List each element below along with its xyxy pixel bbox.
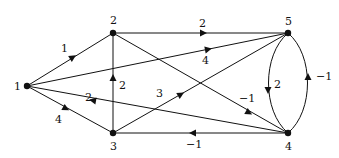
edge-1-5	[27, 33, 288, 86]
weight-1-2: 1	[61, 42, 68, 55]
edge-4-5	[288, 33, 308, 133]
weight-5-4: 2	[274, 78, 281, 91]
node-label-2: 2	[110, 14, 117, 27]
weight-4-1: 2	[85, 91, 92, 104]
node-1	[24, 83, 30, 89]
edge-1-2	[27, 33, 113, 86]
node-2	[110, 30, 116, 36]
weight-1-5: 4	[202, 54, 209, 67]
arrow-2-5	[200, 30, 207, 37]
weight-2-5: 2	[199, 17, 206, 30]
node-label-3: 3	[110, 140, 117, 153]
node-3	[110, 130, 116, 136]
arrow-4-5	[305, 73, 312, 80]
arrow-1-5	[204, 45, 212, 53]
weight-3-5: 3	[156, 87, 163, 100]
arrow-5-4	[265, 87, 272, 94]
weight-1-3: 4	[55, 113, 62, 126]
arrow-3-5	[176, 89, 186, 99]
weight-3-2: 2	[119, 79, 126, 92]
graph-diagram: 1 2 3 4 5 1 4 4 2 2 2 −1 3 −1 2 −1	[0, 0, 339, 158]
node-4	[285, 130, 291, 136]
edge-1-3	[27, 86, 113, 133]
arrow-4-3	[189, 130, 196, 137]
weight-4-3: −1	[186, 138, 202, 151]
arrow-3-2	[110, 74, 117, 81]
node-5	[285, 30, 291, 36]
arrow-1-2	[68, 52, 78, 62]
node-label-5: 5	[285, 15, 292, 28]
node-label-4: 4	[285, 140, 292, 153]
node-label-1: 1	[14, 80, 21, 93]
weight-2-4: −1	[239, 92, 255, 105]
weight-4-5: −1	[316, 70, 332, 83]
